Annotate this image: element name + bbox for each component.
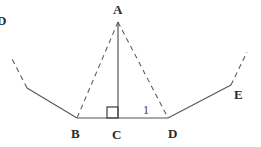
triangle-leg-ab-dashed <box>77 22 118 118</box>
point-label-e: E <box>234 88 243 101</box>
point-label-clipped-left: D <box>0 14 6 27</box>
geometry-figure: A B C D E D 1 <box>0 0 261 147</box>
left-extension-dashed-line <box>11 57 27 88</box>
point-label-a: A <box>113 3 122 16</box>
right-angle-marker <box>107 107 118 118</box>
geometry-canvas <box>0 0 261 147</box>
point-label-d: D <box>168 127 177 140</box>
right-extension-dashed-line <box>231 52 247 85</box>
left-slope-line <box>27 88 77 118</box>
point-label-c: C <box>112 128 121 141</box>
right-slope-line <box>168 85 231 118</box>
point-label-b: B <box>71 127 80 140</box>
segment-measure-label: 1 <box>143 104 149 116</box>
